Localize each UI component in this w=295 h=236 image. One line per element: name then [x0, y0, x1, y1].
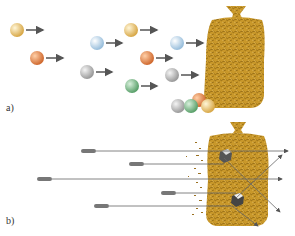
panel-a-label: a) [6, 102, 14, 113]
debris-b [186, 142, 203, 215]
diagram-canvas [0, 0, 295, 236]
panel-b-label: b) [6, 215, 14, 226]
bag-a [204, 6, 265, 108]
balls-a [10, 23, 203, 93]
